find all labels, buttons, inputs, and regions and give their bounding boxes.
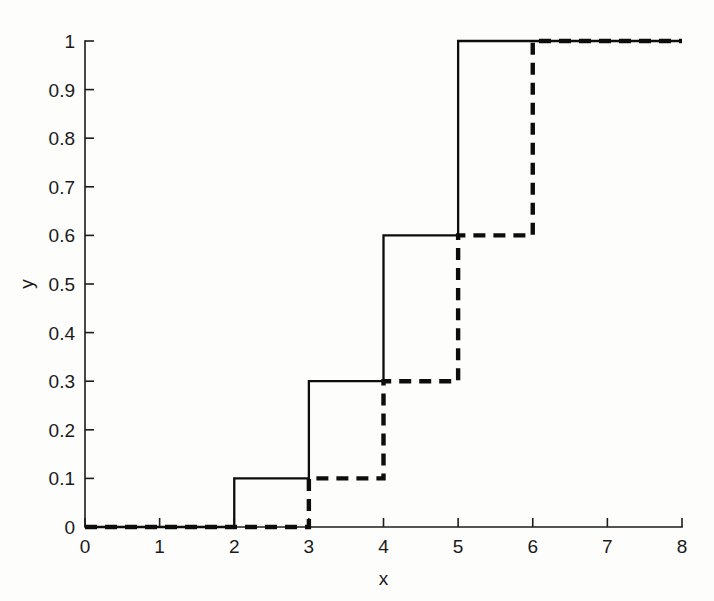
y-tick-label: 0.9 <box>49 80 75 101</box>
x-tick-label: 2 <box>229 536 240 557</box>
x-tick-label: 8 <box>677 536 688 557</box>
y-tick-label: 0.7 <box>49 177 75 198</box>
step-function-chart: 012345678 00.10.20.30.40.50.60.70.80.91 … <box>0 0 714 601</box>
y-tick-label: 0.3 <box>49 371 75 392</box>
x-tick-label: 7 <box>602 536 613 557</box>
x-tick-label: 5 <box>453 536 464 557</box>
x-tick-label: 3 <box>304 536 315 557</box>
x-axis-tick-labels: 012345678 <box>80 536 688 557</box>
y-axis-title: y <box>16 279 37 289</box>
y-axis-tick-labels: 00.10.20.30.40.50.60.70.80.91 <box>49 31 76 538</box>
x-axis-title: x <box>379 568 389 589</box>
y-tick-label: 0.2 <box>49 420 75 441</box>
data-series-group <box>85 41 682 527</box>
y-tick-label: 0.5 <box>49 274 75 295</box>
x-tick-label: 4 <box>378 536 389 557</box>
y-tick-label: 0.4 <box>49 323 76 344</box>
y-tick-label: 1 <box>64 31 75 52</box>
y-tick-label: 0 <box>64 517 75 538</box>
x-tick-label: 1 <box>154 536 165 557</box>
y-tick-label: 0.8 <box>49 128 75 149</box>
y-tick-label: 0.1 <box>49 468 75 489</box>
y-tick-label: 0.6 <box>49 225 75 246</box>
figure-canvas: 012345678 00.10.20.30.40.50.60.70.80.91 … <box>0 0 714 601</box>
y-axis-tickmarks <box>85 41 94 527</box>
x-tick-label: 6 <box>527 536 538 557</box>
x-tick-label: 0 <box>80 536 91 557</box>
